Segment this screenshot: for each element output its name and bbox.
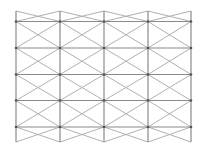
grid-node <box>103 126 106 129</box>
grid-node <box>15 47 18 50</box>
grid-node <box>190 99 193 102</box>
grid-node <box>59 73 62 76</box>
grid-node <box>103 20 106 23</box>
grid-node <box>15 73 18 76</box>
grid-node <box>147 126 150 129</box>
grid-node <box>190 47 193 50</box>
grid-node <box>147 73 150 76</box>
lattice-diagram <box>0 0 221 150</box>
grid-node <box>103 73 106 76</box>
grid-node <box>103 99 106 102</box>
grid-node <box>103 47 106 50</box>
grid-node <box>15 99 18 102</box>
grid-node <box>190 126 193 129</box>
grid-node <box>59 47 62 50</box>
grid-node <box>59 99 62 102</box>
grid-lines <box>16 11 191 142</box>
grid-node <box>190 73 193 76</box>
grid-node <box>59 126 62 129</box>
grid-node <box>15 20 18 23</box>
grid-node <box>190 20 193 23</box>
grid-node <box>147 20 150 23</box>
grid-node <box>147 99 150 102</box>
grid-node <box>15 126 18 129</box>
grid-node <box>59 20 62 23</box>
grid-node <box>147 47 150 50</box>
